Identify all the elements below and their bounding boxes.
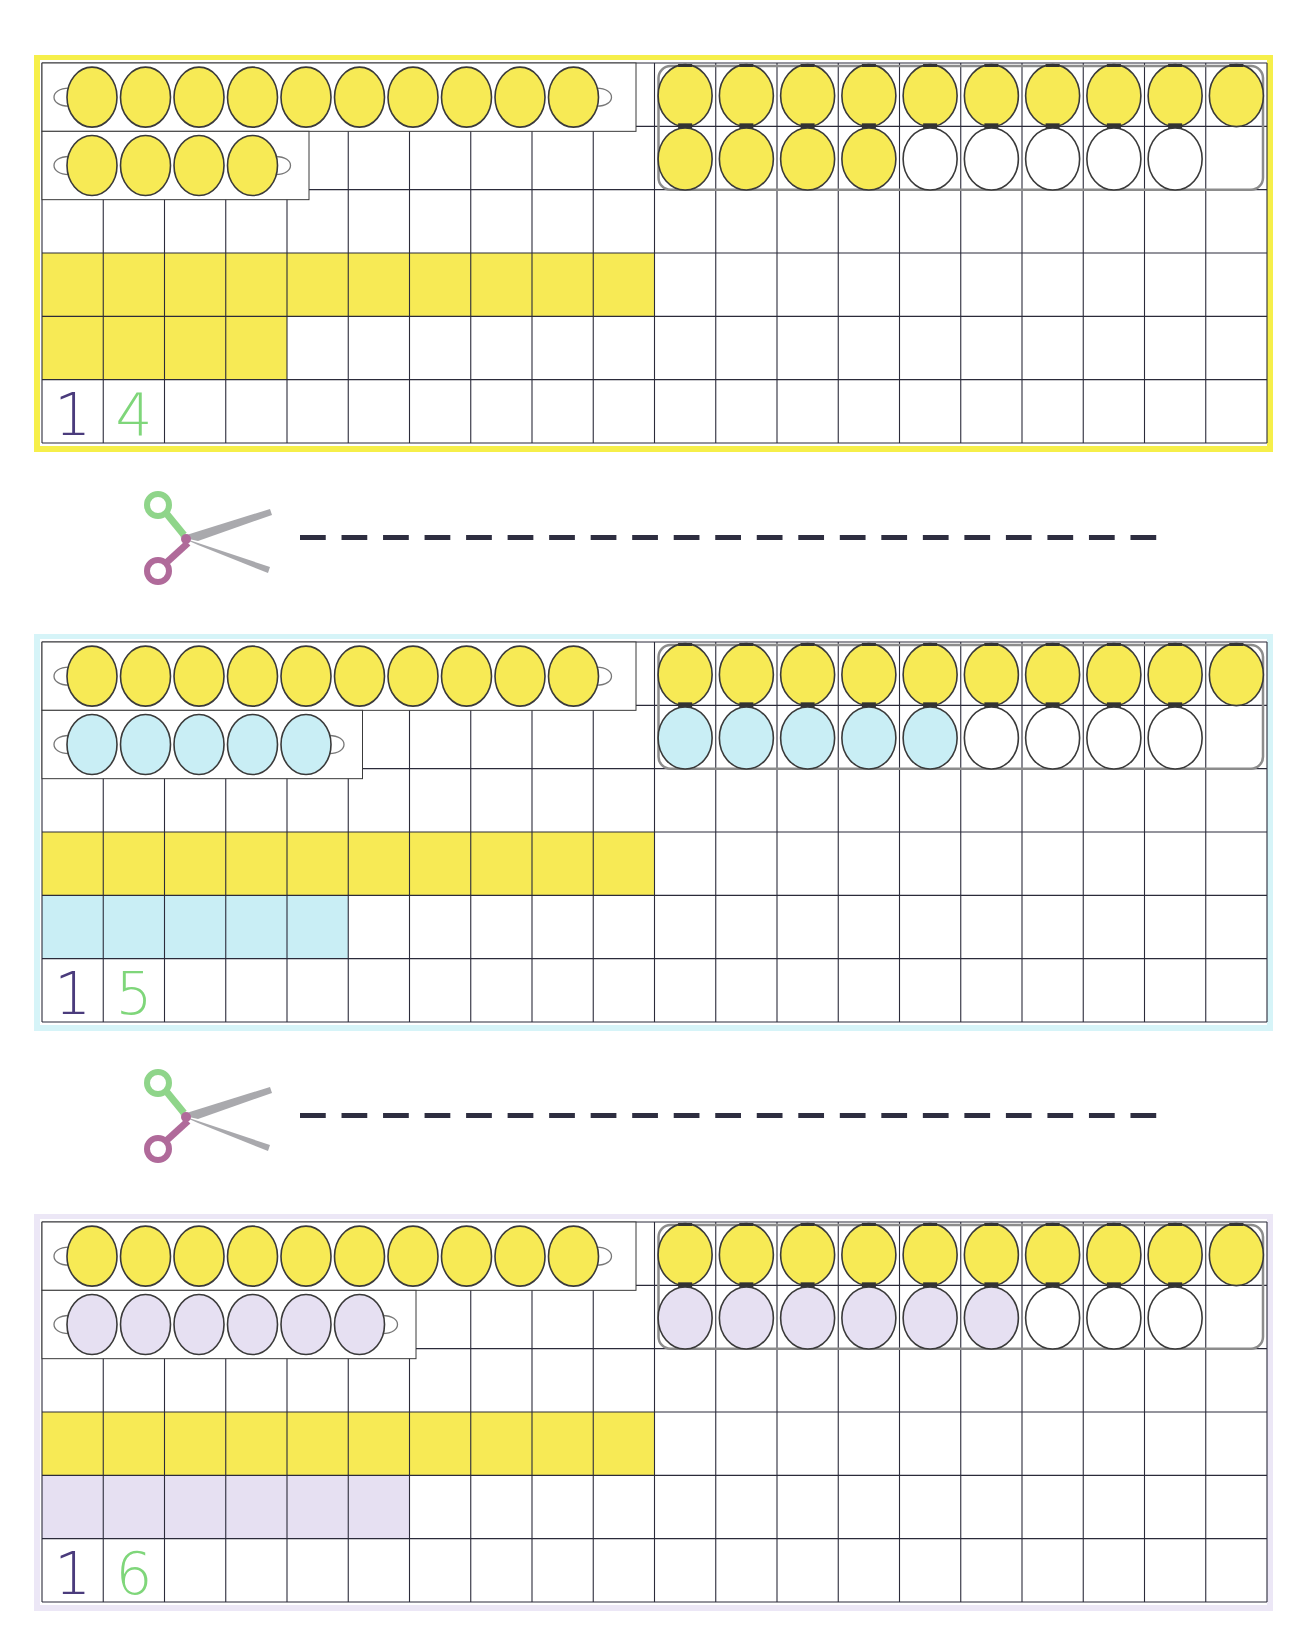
bead xyxy=(388,646,438,706)
frame-bead-bottom-empty xyxy=(964,128,1018,190)
frame-bead-bottom-empty xyxy=(1026,128,1080,190)
bead xyxy=(228,67,278,127)
frame-bead-bottom-filled xyxy=(842,128,896,190)
frame-bead-bottom-empty xyxy=(1148,1287,1202,1349)
frame-bead-bottom-empty xyxy=(1087,1287,1141,1349)
frame-bead-bottom-filled xyxy=(842,1287,896,1349)
bead xyxy=(442,67,492,127)
worksheet-page: 14 14 15 15 16 16 xyxy=(0,0,1308,1628)
bead xyxy=(335,1295,385,1355)
bead xyxy=(174,136,224,196)
bead xyxy=(67,67,117,127)
bead xyxy=(121,1226,171,1286)
frame-bead-top xyxy=(1209,65,1263,127)
ones-bead-strip xyxy=(42,710,363,778)
bead xyxy=(228,715,278,775)
bead xyxy=(67,715,117,775)
frame-bead-bottom-empty xyxy=(964,707,1018,769)
bead xyxy=(228,136,278,196)
number-card-14: 14 14 xyxy=(0,55,1308,515)
bead xyxy=(174,67,224,127)
frame-bead-top xyxy=(1148,1224,1202,1286)
frame-bead-bottom-empty xyxy=(1087,707,1141,769)
frame-bead-bottom-filled xyxy=(658,707,712,769)
tens-digit: 1 xyxy=(54,1540,91,1608)
frame-bead-top xyxy=(658,65,712,127)
ones-bar xyxy=(42,895,348,958)
bead xyxy=(67,1226,117,1286)
bead xyxy=(174,715,224,775)
bead xyxy=(442,646,492,706)
frame-bead-bottom-empty xyxy=(1026,707,1080,769)
frame-bead-top xyxy=(781,644,835,706)
frame-bead-top xyxy=(964,644,1018,706)
bead xyxy=(67,1295,117,1355)
frame-bead-top xyxy=(719,644,773,706)
frame-bead-bottom-filled xyxy=(781,128,835,190)
frame-bead-top xyxy=(903,65,957,127)
bead xyxy=(121,715,171,775)
bead xyxy=(228,1295,278,1355)
frame-bead-bottom-empty xyxy=(1148,707,1202,769)
dashed-cut-line xyxy=(300,535,1156,540)
bead xyxy=(174,646,224,706)
frame-bead-bottom-filled xyxy=(719,128,773,190)
ones-digit: 6 xyxy=(115,1540,152,1608)
frame-bead-bottom-empty xyxy=(1026,1287,1080,1349)
ones-digit: 5 xyxy=(115,960,152,1028)
bead xyxy=(281,67,331,127)
ones-bead-strip xyxy=(42,131,309,199)
frame-bead-bottom-filled xyxy=(781,1287,835,1349)
cut-line xyxy=(0,1065,1308,1165)
bead xyxy=(121,67,171,127)
frame-bead-top xyxy=(842,65,896,127)
frame-bead-top xyxy=(842,1224,896,1286)
frame-bead-top xyxy=(719,65,773,127)
frame-bead-top xyxy=(658,644,712,706)
frame-bead-bottom-empty xyxy=(903,128,957,190)
frame-bead-top xyxy=(1087,65,1141,127)
frame-bead-bottom-filled xyxy=(964,1287,1018,1349)
scissors-icon xyxy=(147,494,272,582)
frame-bead-bottom-filled xyxy=(658,128,712,190)
bead xyxy=(549,646,599,706)
bead xyxy=(67,646,117,706)
ten-bead-strip xyxy=(42,63,636,131)
frame-bead-top xyxy=(719,1224,773,1286)
frame-bead-bottom-filled xyxy=(781,707,835,769)
frame-bead-bottom-filled xyxy=(719,1287,773,1349)
bead xyxy=(442,1226,492,1286)
frame-bead-top xyxy=(903,1224,957,1286)
scissors-icon xyxy=(147,1072,272,1160)
frame-bead-top xyxy=(903,644,957,706)
bead xyxy=(281,1226,331,1286)
frame-bead-top xyxy=(1087,644,1141,706)
frame-bead-top xyxy=(1026,644,1080,706)
frame-bead-top xyxy=(781,1224,835,1286)
bead xyxy=(228,646,278,706)
frame-bead-top xyxy=(842,644,896,706)
bead xyxy=(335,1226,385,1286)
bead xyxy=(281,1295,331,1355)
frame-bead-top xyxy=(964,65,1018,127)
frame-bead-top xyxy=(1209,644,1263,706)
bead xyxy=(174,1226,224,1286)
frame-bead-bottom-filled xyxy=(719,707,773,769)
frame-bead-top xyxy=(1026,1224,1080,1286)
bead xyxy=(549,1226,599,1286)
bead xyxy=(495,67,545,127)
number-card-16: 16 16 xyxy=(0,1214,1308,1628)
dashed-cut-line xyxy=(300,1113,1156,1118)
bead xyxy=(495,646,545,706)
frame-bead-top xyxy=(1087,1224,1141,1286)
frame-bead-top xyxy=(964,1224,1018,1286)
bead xyxy=(335,67,385,127)
frame-bead-bottom-filled xyxy=(658,1287,712,1349)
bead xyxy=(174,1295,224,1355)
bead xyxy=(121,646,171,706)
bead xyxy=(388,67,438,127)
frame-bead-bottom-filled xyxy=(842,707,896,769)
frame-bead-top xyxy=(658,1224,712,1286)
frame-bead-top xyxy=(1026,65,1080,127)
bead xyxy=(281,715,331,775)
